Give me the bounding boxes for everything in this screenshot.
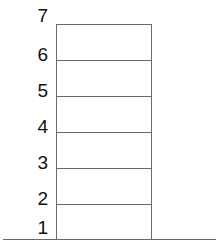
level-label-4: 4 xyxy=(24,117,48,136)
level-line-3 xyxy=(56,168,152,169)
level-diagram: 7 6 5 4 3 2 1 xyxy=(0,0,222,250)
level-line-6 xyxy=(56,60,152,61)
level-line-2 xyxy=(56,204,152,205)
level-line-5 xyxy=(56,96,152,97)
level-label-1: 1 xyxy=(24,218,48,237)
level-label-3: 3 xyxy=(24,153,48,172)
ground-baseline xyxy=(3,239,216,240)
level-label-5: 5 xyxy=(24,81,48,100)
level-line-7 xyxy=(56,24,152,25)
level-label-2: 2 xyxy=(24,189,48,208)
level-label-6: 6 xyxy=(24,45,48,64)
level-label-7: 7 xyxy=(24,6,48,25)
level-line-4 xyxy=(56,132,152,133)
